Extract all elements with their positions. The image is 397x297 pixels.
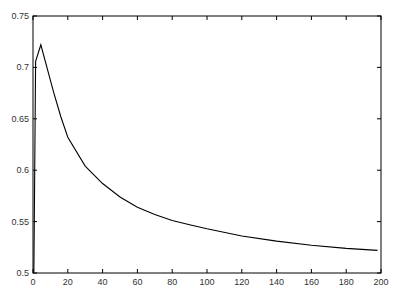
y-tick-label: 0.55 [11, 217, 29, 227]
x-tick-label: 140 [269, 277, 284, 287]
y-tick-label: 0.75 [11, 11, 29, 21]
x-tick-label: 0 [30, 277, 35, 287]
x-tick-label: 180 [339, 277, 354, 287]
y-tick-label: 0.5 [16, 268, 29, 278]
x-tick-label: 60 [132, 277, 142, 287]
x-axis: 020406080100120140160180200 [30, 16, 388, 287]
y-tick-label: 0.6 [16, 165, 29, 175]
x-tick-label: 80 [167, 277, 177, 287]
line-chart: 020406080100120140160180200 0.50.550.60.… [0, 0, 397, 297]
plot-border [33, 16, 381, 273]
x-tick-label: 200 [373, 277, 388, 287]
x-tick-label: 100 [199, 277, 214, 287]
plot-frame [33, 16, 381, 273]
data-line [34, 45, 378, 273]
x-tick-label: 120 [234, 277, 249, 287]
y-axis: 0.50.550.60.650.70.75 [11, 11, 381, 278]
x-tick-label: 40 [98, 277, 108, 287]
x-tick-label: 160 [304, 277, 319, 287]
y-tick-label: 0.7 [16, 62, 29, 72]
x-tick-label: 20 [63, 277, 73, 287]
y-tick-label: 0.65 [11, 114, 29, 124]
